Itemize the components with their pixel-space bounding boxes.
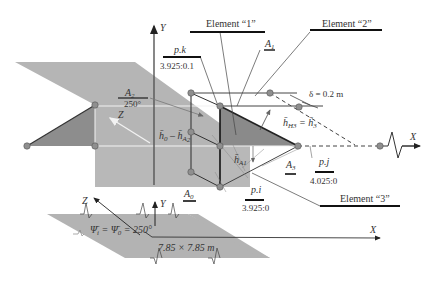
pi-name: p.i [250,184,262,195]
pk-coords: 3.925:0.1 [160,61,194,71]
element-3-label: Element “3” [340,193,390,204]
finite-element-diagram: Y Z δ = 0.2 m X [0,0,434,283]
y-axis-label-bottom: Y [160,198,167,209]
a0-name: A0 [183,188,194,201]
plate-size-label: 7.85 × 7.85 m [158,242,214,253]
pi-coords: 3.925:0 [242,203,270,213]
x-axis-label-top: X [409,131,417,142]
a2-value: 250° [124,99,142,109]
pj-name: p.j [318,156,330,167]
x-axis-label-bottom: X [369,224,377,235]
pk-name: p.k [173,44,187,55]
y-axis-label-top: Y [160,22,167,33]
thickness-label: δ = 0.2 m [309,89,343,99]
z-axis-label-bottom: Z [82,195,88,206]
element-1-label: Element “1” [206,18,256,29]
plate-plane-lower [95,145,250,187]
z-axis-label-top: Z [118,109,124,120]
a1-name: A1 [264,38,275,51]
a3-name: A3 [285,159,296,172]
pj-coords: 4.025:0 [310,176,338,186]
element-2-label: Element “2” [322,18,372,29]
hh3-equals-h3: h̄H3 = h̄3 [283,117,317,130]
